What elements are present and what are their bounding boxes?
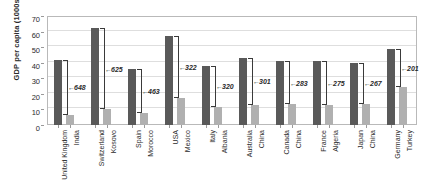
x-tick-label: Kosovo [110,130,117,153]
x-tick-label: Morocco [147,130,154,157]
x-tick-mark [169,125,170,128]
ratio-label: 463 [148,88,160,95]
y-tick-mark [41,16,44,17]
bar-poor [362,104,370,125]
bar-rich [91,28,99,125]
ratio-label: 283 [296,80,308,87]
ratio-label: 625 [111,66,123,73]
x-tick-label: USA [172,130,179,144]
x-tick-mark [58,125,59,128]
bar-rich [350,63,358,125]
x-tick-mark [403,125,404,128]
bar-poor [66,115,74,125]
x-tick-mark [144,125,145,128]
bar-pair: ←463 [125,16,162,125]
x-tick-mark [181,125,182,128]
x-tick-mark [70,125,71,128]
y-tick-mark [41,32,44,33]
bar-pair: ←283 [273,16,310,125]
bar-rich [387,49,395,125]
x-tick-mark [280,125,281,128]
bar-pair: ←267 [347,16,384,125]
bar-pair: ←201 [384,16,421,125]
x-tick-label: China [369,130,376,148]
x-tick-label: Australia [246,130,253,157]
x-tick-label: Mexico [184,130,191,152]
bar-rich [165,36,173,125]
x-tick-label: Spain [135,130,142,148]
x-tick-mark [107,125,108,128]
bar-rich [128,69,136,125]
bar-pair: ←322 [162,16,199,125]
bar-poor [140,113,148,125]
y-tick-mark [41,94,44,95]
bar-pair: ←301 [236,16,273,125]
x-tick-label: Algeria [332,130,339,152]
y-tick-mark [41,47,44,48]
x-tick-mark [206,125,207,128]
bar-poor [214,107,222,125]
bar-rich [276,61,284,125]
x-tick-mark [243,125,244,128]
bar-poor [251,105,259,125]
bar-poor [288,104,296,125]
x-tick-label: Turkey [406,130,413,151]
bar-poor [103,109,111,125]
bar-pair: ←320 [199,16,236,125]
bar-rich [239,58,247,125]
x-tick-mark [329,125,330,128]
x-tick-mark [255,125,256,128]
x-tick-label: United Kingdom [61,130,68,180]
ratio-label: 648 [74,84,86,91]
ratio-label: 275 [333,80,345,87]
x-tick-label: Japan [357,130,364,149]
x-tick-label: Italy [209,130,216,143]
bar-poor [177,98,185,125]
x-tick-label: Switzerland [98,130,105,166]
gdp-per-capita-bar-chart: GDP per capita (1000s) 010203040506070 ←… [0,0,433,191]
y-tick-mark [41,109,44,110]
x-tick-mark [391,125,392,128]
x-tick-mark [354,125,355,128]
x-tick-mark [218,125,219,128]
y-axis-tick-labels: 010203040506070 [20,16,44,125]
bar-rich [54,60,62,125]
bar-rich [313,61,321,125]
bar-poor [325,105,333,125]
ratio-label: 301 [259,78,271,85]
bar-rich [202,66,210,125]
bars-layer: ←648←625←463←322←320←301←283←275←267←201 [47,16,417,125]
y-tick-mark [41,63,44,64]
x-tick-label: Albania [221,130,228,153]
ratio-label: 320 [222,83,234,90]
bar-pair: ←648 [51,16,88,125]
ratio-label: 267 [370,80,382,87]
x-tick-label: China [258,130,265,148]
x-tick-label: India [73,130,80,145]
x-tick-mark [132,125,133,128]
ratio-label: 201 [407,65,419,72]
x-tick-label: Germany [394,130,401,159]
x-axis-tick-labels: United KingdomIndiaSwitzerlandKosovoSpai… [47,125,417,191]
y-tick-mark [41,125,44,126]
bar-poor [399,87,407,125]
bar-pair: ←625 [88,16,125,125]
x-tick-mark [366,125,367,128]
y-tick-mark [41,78,44,79]
x-tick-label: China [295,130,302,148]
x-tick-mark [95,125,96,128]
x-tick-label: Canada [283,130,290,155]
x-tick-label: France [320,130,327,152]
x-tick-mark [292,125,293,128]
x-tick-mark [317,125,318,128]
bar-pair: ←275 [310,16,347,125]
ratio-label: 322 [185,64,197,71]
